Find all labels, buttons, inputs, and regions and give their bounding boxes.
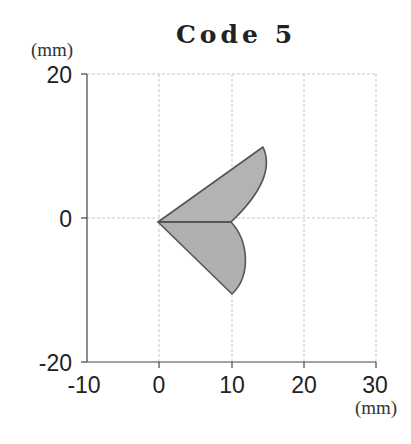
x-tick-label-30: 30 — [362, 372, 388, 398]
x-tick-label-10: 10 — [219, 372, 245, 398]
y-axis-unit-label: (mm) — [31, 39, 73, 61]
shape — [158, 147, 267, 294]
lower-lobe — [158, 222, 245, 294]
x-tick-label-neg10: -10 — [67, 372, 100, 398]
x-axis-unit-label: (mm) — [355, 397, 397, 419]
y-tick-label-0: 0 — [59, 206, 72, 232]
y-tick-label-20: 20 — [46, 62, 72, 88]
x-tick-label-20: 20 — [291, 372, 317, 398]
chart: Code 5 (mm) 20 0 -20 -10 0 10 20 30 (mm) — [0, 0, 411, 444]
x-tick-label-0: 0 — [153, 372, 166, 398]
chart-title: Code 5 — [176, 20, 296, 49]
upper-lobe — [158, 147, 267, 222]
